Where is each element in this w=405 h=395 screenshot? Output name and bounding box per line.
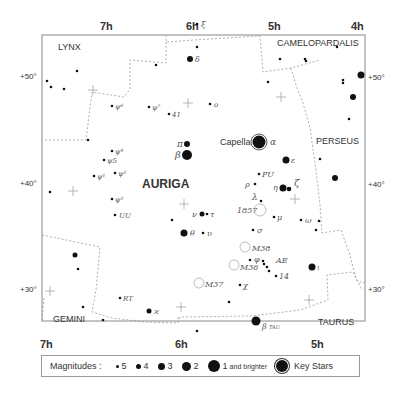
grid-crosses [45,85,314,312]
star-dot-icon [136,364,141,369]
svg-text:+50°: +50° [368,73,385,82]
svg-text:θ: θ [190,229,195,238]
svg-text:41: 41 [171,111,181,119]
svg-text:η: η [273,183,278,192]
star-labels: Capella α β π θ ν τ υ ε η ζ PU ρ λ μ σ ω… [97,20,320,331]
star-dot-icon [208,360,220,372]
svg-text:φ: φ [254,255,260,264]
label-lynx: LYNX [58,42,81,52]
constellation-boundaries [42,35,365,323]
svg-text:ω: ω [305,216,312,225]
svg-text:AE: AE [275,256,288,265]
svg-text:+40°: +40° [368,180,385,189]
star-dot-icon [182,362,191,371]
svg-text:+40°: +40° [20,179,37,188]
svg-text:7h: 7h [100,20,113,32]
svg-text:7h: 7h [40,338,53,350]
label-taurus: TAURUS [318,317,354,327]
label-gemini: GEMINI [53,314,85,324]
svg-text:TAU: TAU [269,324,281,330]
legend-mag-3: 3 [158,361,173,371]
svg-text:6h: 6h [186,20,199,32]
svg-text:ζ: ζ [294,177,300,188]
legend-mag-5: 5 [116,361,127,371]
label-camelopardalis: CAMELOPARDALIS [277,38,359,48]
star-chart: 7h 6h 5h 4h 7h 6h 5h +50° +40° +30° +50°… [0,0,405,395]
dec-axis-left: +50° +40° +30° [20,72,37,294]
svg-text:+30°: +30° [20,285,37,294]
legend-mag-1: 1 and brighter [208,360,267,372]
svg-text:Capella: Capella [220,137,251,147]
svg-text:ξ: ξ [201,20,206,29]
svg-text:χ: χ [242,281,249,290]
legend-mag-4: 4 [136,361,149,371]
svg-text:5h: 5h [268,20,281,32]
svg-text:ψ²: ψ² [118,170,126,178]
svg-text:ϰ: ϰ [153,307,160,316]
svg-text:λ: λ [251,192,258,202]
svg-text:τ: τ [210,210,215,219]
svg-text:ψ¹: ψ¹ [97,173,105,181]
star-dot-icon [158,363,165,370]
label-auriga: AURIGA [142,177,190,191]
svg-text:4h: 4h [351,20,364,32]
dec-axis-right: +50° +40° +30° [368,73,385,294]
svg-text:π: π [176,139,184,149]
svg-text:ρ: ρ [244,180,250,189]
magnitude-legend: Magnitudes : 5 4 3 2 1 and brighter Key … [41,355,360,377]
svg-text:M37: M37 [204,280,224,289]
ra-axis-top: 7h 6h 5h 4h [100,20,364,32]
svg-text:o: o [214,101,218,109]
svg-text:PU: PU [261,170,274,179]
svg-text:ψ³: ψ³ [115,196,123,204]
svg-text:ψ⁷: ψ⁷ [152,104,160,112]
svg-text:ψ⁶: ψ⁶ [115,103,123,111]
svg-text:ε: ε [291,156,295,165]
key-star-icon [276,360,288,372]
star-dot-icon [116,365,119,368]
svg-text:ψ5: ψ5 [107,157,117,165]
svg-text:μ: μ [277,213,282,222]
svg-text:RT: RT [122,295,134,303]
svg-text:υ: υ [207,229,212,238]
legend-key-stars: Key Stars [276,360,333,372]
legend-title: Magnitudes : [50,361,102,371]
svg-text:β: β [261,322,267,331]
svg-text:+30°: +30° [368,285,385,294]
label-perseus: PERSEUS [316,136,359,146]
svg-text:M38: M38 [251,244,270,253]
svg-text:ι: ι [317,264,320,272]
svg-text:5h: 5h [311,338,324,350]
svg-text:1857: 1857 [237,206,258,215]
legend-mag-2: 2 [182,361,199,371]
svg-text:σ: σ [257,226,263,235]
svg-text:δ: δ [195,55,200,64]
svg-text:ν: ν [192,210,197,219]
ra-axis-bottom: 7h 6h 5h [40,338,324,350]
svg-text:UU: UU [119,212,132,220]
svg-text:6h: 6h [175,338,188,350]
svg-text:M36: M36 [239,263,258,272]
svg-text:α: α [270,137,276,147]
svg-text:β: β [174,149,181,160]
svg-text:ψ⁴: ψ⁴ [115,148,123,156]
svg-text:14: 14 [279,272,289,281]
svg-text:+50°: +50° [20,72,37,81]
